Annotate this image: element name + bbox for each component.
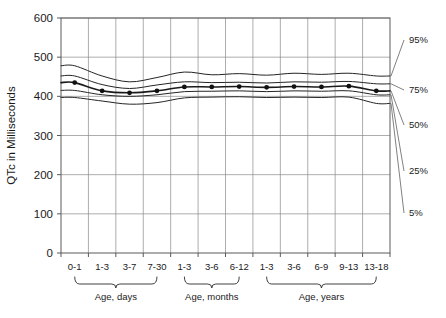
group-bracket <box>184 277 239 288</box>
data-point-marker <box>346 84 351 89</box>
percentile-label-95: 95% <box>409 34 429 45</box>
x-axis-ticks: 0-11-33-77-301-33-66-121-33-66-99-1313-1… <box>61 253 390 272</box>
x-tick-label: 13-18 <box>364 261 388 272</box>
x-tick-label: 0-1 <box>68 261 82 272</box>
y-tick-label: 100 <box>34 208 53 220</box>
group-label: Age, years <box>299 291 345 302</box>
percentile-legend: 95%75%50%25%5% <box>391 34 429 218</box>
data-point-marker <box>264 85 269 90</box>
data-point-marker <box>155 88 160 93</box>
percentile-label-5: 5% <box>409 207 423 218</box>
y-tick-label: 200 <box>34 169 53 181</box>
data-point-marker <box>292 84 297 89</box>
y-tick-label: 300 <box>34 130 53 142</box>
group-bracket <box>75 277 157 288</box>
percentile-label-25: 25% <box>409 165 429 176</box>
x-tick-label: 3-6 <box>287 261 301 272</box>
data-point-marker <box>127 90 132 95</box>
chart-canvas: 0100200300400500600 0-11-33-77-301-33-66… <box>0 0 446 318</box>
data-point-marker <box>374 88 379 93</box>
y-axis-title: QTc in Milliseconds <box>5 86 17 185</box>
x-tick-label: 6-12 <box>230 261 249 272</box>
data-point-marker <box>237 84 242 89</box>
data-point-marker <box>100 88 105 93</box>
x-tick-label: 7-30 <box>147 261 166 272</box>
y-tick-label: 400 <box>34 90 53 102</box>
qtc-percentile-chart: 0100200300400500600 0-11-33-77-301-33-66… <box>0 0 446 318</box>
x-tick-label: 6-9 <box>315 261 329 272</box>
group-label: Age, days <box>95 291 137 302</box>
y-axis-ticks: 0100200300400500600 <box>34 12 61 259</box>
x-tick-label: 1-3 <box>95 261 109 272</box>
y-tick-label: 0 <box>47 247 53 259</box>
data-point-marker <box>72 80 77 85</box>
data-point-marker <box>319 85 324 90</box>
percentile-leader-line-75 <box>391 84 404 90</box>
percentile-label-50: 50% <box>409 119 429 130</box>
group-brackets: Age, daysAge, monthsAge, years <box>75 277 377 302</box>
x-tick-label: 9-13 <box>339 261 358 272</box>
y-tick-label: 600 <box>34 12 53 24</box>
group-label: Age, months <box>185 291 239 302</box>
percentile-leader-line-95 <box>391 40 404 76</box>
grid-layer <box>61 18 390 253</box>
x-tick-label: 1-3 <box>178 261 192 272</box>
data-point-marker <box>209 85 214 90</box>
x-tick-label: 1-3 <box>260 261 274 272</box>
percentile-label-75: 75% <box>409 84 429 95</box>
y-axis-title-text: QTc in Milliseconds <box>5 86 17 185</box>
y-tick-label: 500 <box>34 51 53 63</box>
group-bracket <box>267 277 377 288</box>
data-point-marker <box>182 85 187 90</box>
x-tick-label: 3-6 <box>205 261 219 272</box>
x-tick-label: 3-7 <box>123 261 137 272</box>
